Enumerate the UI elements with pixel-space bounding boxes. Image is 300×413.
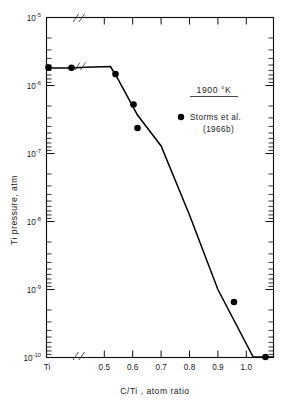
axis-break-dataline <box>75 63 86 71</box>
x-axis-bottom-ticks <box>104 351 246 358</box>
y-tick-label-1e-9: 10-9 <box>27 284 41 295</box>
x-tick-label-1-0: 1.0 <box>241 363 253 372</box>
x-tick-label-0-9: 0.9 <box>212 363 224 372</box>
x-tick-label-ti: Ti <box>44 363 51 372</box>
y-tick-label-1e-6: 10-6 <box>27 80 41 91</box>
x-axis-title: C/Ti , atom ratio <box>120 386 189 396</box>
y-axis-right-major-ticks <box>266 18 274 358</box>
y-tick-label-1e-10: 10-10 <box>24 352 42 363</box>
x-tick-label-0-6: 0.6 <box>127 363 139 372</box>
axis-break-bottom <box>73 352 85 360</box>
legend-marker-icon <box>178 114 184 120</box>
legend: 1900 °K Storms et al. (1966b) <box>178 85 241 134</box>
pressure-vs-composition-plot: 10-5 10-6 10-7 10-8 10-9 10-10 Ti 0.5 0.… <box>0 0 300 413</box>
model-curve-line <box>47 67 274 358</box>
x-axis-top-ticks <box>104 18 246 25</box>
data-point <box>112 71 119 78</box>
legend-label-line1: Storms et al. <box>190 113 241 122</box>
data-point <box>231 299 238 306</box>
data-point <box>134 125 141 132</box>
data-point <box>45 64 52 71</box>
y-axis-title: Ti pressure, atm <box>9 175 19 245</box>
data-point <box>68 65 75 72</box>
chart-figure: 10-5 10-6 10-7 10-8 10-9 10-10 Ti 0.5 0.… <box>0 0 300 413</box>
y-tick-label-1e-8: 10-8 <box>27 216 41 227</box>
legend-label-line2: (1966b) <box>203 125 234 134</box>
data-point <box>130 101 137 108</box>
x-axis-tick-labels: Ti 0.5 0.6 0.7 0.8 0.9 1.0 <box>44 363 253 372</box>
temperature-label: 1900 °K <box>197 85 232 95</box>
data-points-storms <box>45 64 269 360</box>
data-point <box>262 354 269 361</box>
x-tick-label-0-7: 0.7 <box>155 363 167 372</box>
plot-frame <box>47 18 274 358</box>
y-tick-label-1e-5: 10-5 <box>27 12 41 23</box>
y-axis-tick-labels: 10-5 10-6 10-7 10-8 10-9 10-10 <box>24 12 42 363</box>
y-tick-label-1e-7: 10-7 <box>27 148 41 159</box>
x-tick-label-0-5: 0.5 <box>99 363 111 372</box>
x-tick-label-0-8: 0.8 <box>184 363 196 372</box>
